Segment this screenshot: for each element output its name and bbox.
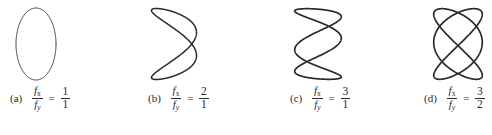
ratio-numerator-c: 3 <box>341 86 351 99</box>
panel-tag-d: (d) <box>424 93 437 104</box>
lissajous-curve-b <box>149 6 199 82</box>
fx-symbol-a: fx <box>32 85 43 98</box>
equals-sign-c: = <box>329 93 335 104</box>
panel-tag-a: (a) <box>10 93 22 104</box>
fy-symbol-d: fy <box>447 99 458 111</box>
ratio-value-c: 3 1 <box>341 86 351 110</box>
fy-symbol-a: fy <box>32 99 43 111</box>
ratio-value-a: 1 1 <box>61 86 71 110</box>
caption-a: (a) fx fy = 1 1 <box>10 85 70 111</box>
x-subscript: x <box>452 89 456 98</box>
ratio-denominator-d: 2 <box>475 99 485 111</box>
equals-sign-d: = <box>463 93 469 104</box>
frequency-ratio-symbol-a: fx fy <box>32 85 43 111</box>
fy-symbol-c: fy <box>312 99 323 111</box>
lissajous-path-b <box>152 9 197 80</box>
caption-b: (b) fx fy = 2 1 <box>148 85 209 111</box>
ratio-numerator-a: 1 <box>61 86 71 99</box>
frequency-ratio-symbol-c: fx fy <box>312 85 323 111</box>
ratio-denominator-b: 1 <box>199 99 209 111</box>
x-subscript: x <box>317 89 321 98</box>
curve-svg <box>431 6 485 82</box>
panel-tag-b: (b) <box>148 93 161 104</box>
frequency-ratio-symbol-b: fx fy <box>171 85 182 111</box>
lissajous-curve-a <box>14 6 58 82</box>
y-subscript: y <box>452 102 455 111</box>
fx-symbol-d: fx <box>447 85 458 98</box>
lissajous-path-d <box>434 9 483 80</box>
panel-tag-c: (c) <box>290 93 302 104</box>
ratio-value-d: 3 2 <box>475 86 485 110</box>
lissajous-curve-d <box>431 6 485 82</box>
lissajous-path-a <box>16 8 56 80</box>
equals-sign-a: = <box>49 93 55 104</box>
curve-svg <box>292 6 344 82</box>
ratio-numerator-d: 3 <box>475 86 485 99</box>
y-subscript: y <box>176 102 179 111</box>
lissajous-figure-panel: (a) fx fy = 1 1 (b) fx fy = 2 1 <box>0 0 492 135</box>
fx-symbol-b: fx <box>171 85 182 98</box>
caption-d: (d) fx fy = 3 2 <box>424 85 485 111</box>
fx-symbol-c: fx <box>312 85 323 98</box>
curve-svg <box>14 6 58 82</box>
lissajous-path-c <box>295 9 342 80</box>
lissajous-curve-c <box>292 6 344 82</box>
ratio-value-b: 2 1 <box>199 86 209 110</box>
ratio-denominator-c: 1 <box>341 99 351 111</box>
y-subscript: y <box>37 102 40 111</box>
y-subscript: y <box>317 102 320 111</box>
equals-sign-b: = <box>187 93 193 104</box>
x-subscript: x <box>176 89 180 98</box>
x-subscript: x <box>37 89 41 98</box>
ratio-denominator-a: 1 <box>61 99 71 111</box>
fy-symbol-b: fy <box>171 99 182 111</box>
curve-svg <box>149 6 199 82</box>
ratio-numerator-b: 2 <box>199 86 209 99</box>
frequency-ratio-symbol-d: fx fy <box>447 85 458 111</box>
caption-c: (c) fx fy = 3 1 <box>290 85 350 111</box>
